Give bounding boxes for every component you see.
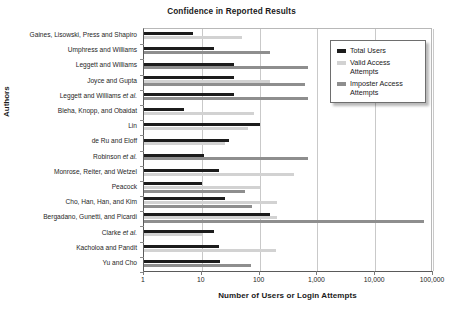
gridline xyxy=(317,29,318,271)
y-axis-tick xyxy=(140,151,144,152)
bar-total xyxy=(144,139,229,142)
bar-imposter xyxy=(144,205,252,208)
bar-valid xyxy=(144,142,225,145)
bar-total xyxy=(144,230,214,233)
y-axis-label: Leggett and Williams et al. xyxy=(7,92,137,100)
bar-imposter xyxy=(144,190,245,193)
y-axis-tick xyxy=(140,59,144,60)
bar-total xyxy=(144,32,193,35)
x-axis-tick-label: 100,000 xyxy=(420,276,445,283)
y-axis-tick xyxy=(140,257,144,258)
legend-label-imposter-access-attempts: Imposter AccessAttempts xyxy=(350,79,403,97)
y-axis-tick xyxy=(140,105,144,106)
y-axis-label: Leggett and Williams xyxy=(7,61,137,69)
x-axis-tick xyxy=(374,271,375,275)
bar-total xyxy=(144,245,219,248)
bar-imposter xyxy=(144,97,308,100)
y-axis-label: Gaines, Lisowski, Press and Shapiro xyxy=(7,31,137,39)
bar-valid xyxy=(144,80,270,83)
legend-item-total-users: Total Users xyxy=(337,46,420,55)
bar-valid xyxy=(144,216,277,219)
chart-figure: Confidence in Reported Results Authors G… xyxy=(0,0,463,315)
bar-total xyxy=(144,123,260,126)
bar-valid xyxy=(144,173,294,176)
y-axis-label: Bleha, Knopp, and Obaidat xyxy=(7,107,137,115)
bar-imposter xyxy=(144,157,308,160)
x-axis-tick xyxy=(316,271,317,275)
x-axis-line xyxy=(143,271,433,272)
gridline xyxy=(260,29,261,271)
bar-valid xyxy=(144,186,260,189)
bar-total xyxy=(144,197,225,200)
bar-total xyxy=(144,213,270,216)
bar-valid xyxy=(144,233,202,236)
x-axis-tick xyxy=(432,271,433,275)
y-axis-label: Kacholoa and Pandit xyxy=(7,244,137,252)
chart-legend: Total Users Valid AccessAttempts Imposte… xyxy=(330,40,426,103)
bar-total xyxy=(144,154,204,157)
x-axis-tick xyxy=(201,271,202,275)
y-axis-label: Joyce and Gupta xyxy=(7,77,137,85)
bar-imposter xyxy=(144,66,308,69)
y-axis-label: Bergadano, Gunetti, and Picardi xyxy=(7,213,137,221)
bar-valid xyxy=(144,201,277,204)
y-axis-label: Yu and Cho xyxy=(7,259,137,267)
legend-swatch-imposter-access-icon xyxy=(337,82,346,86)
y-axis-label: Lin xyxy=(7,122,137,130)
y-axis-category-labels: Gaines, Lisowski, Press and ShapiroUmphr… xyxy=(8,28,140,271)
x-axis-tick xyxy=(259,271,260,275)
y-axis-label: Cho, Han, Han, and Kim xyxy=(7,198,137,206)
x-axis-title: Number of Users or Login Attempts xyxy=(143,291,432,300)
bar-total xyxy=(144,182,202,185)
y-axis-tick xyxy=(140,242,144,243)
chart-title: Confidence in Reported Results xyxy=(0,7,463,16)
legend-swatch-valid-access-icon xyxy=(337,61,346,65)
bar-imposter xyxy=(144,264,251,267)
y-axis-tick xyxy=(140,120,144,121)
x-axis-tick-label: 10 xyxy=(197,276,205,283)
y-axis-tick xyxy=(140,90,144,91)
bar-valid xyxy=(144,127,248,130)
bar-valid xyxy=(144,36,242,39)
x-axis-tick-label: 100 xyxy=(253,276,264,283)
bar-imposter xyxy=(144,220,424,223)
x-axis-tick-label: 1,000 xyxy=(308,276,325,283)
bar-valid xyxy=(144,112,254,115)
legend-label-valid-access-attempts: Valid AccessAttempts xyxy=(350,58,390,76)
y-axis-label: Monrose, Reiter, and Wetzel xyxy=(7,168,137,176)
bar-imposter xyxy=(144,51,270,54)
bar-total xyxy=(144,63,234,66)
bar-total xyxy=(144,76,234,79)
y-axis-tick xyxy=(140,135,144,136)
bar-total xyxy=(144,169,219,172)
y-axis-label: Robinson et al. xyxy=(7,153,137,161)
y-axis-label: Peacock xyxy=(7,183,137,191)
bar-total xyxy=(144,108,184,111)
bar-total xyxy=(144,47,214,50)
bar-total xyxy=(144,260,220,263)
x-axis-tick-label: 10,000 xyxy=(364,276,385,283)
legend-label-total-users: Total Users xyxy=(350,46,386,55)
legend-swatch-total-users-icon xyxy=(337,49,346,53)
bar-valid xyxy=(144,249,276,252)
legend-item-imposter-access-attempts: Imposter AccessAttempts xyxy=(337,79,420,97)
y-axis-tick xyxy=(140,226,144,227)
y-axis-tick xyxy=(140,166,144,167)
y-axis-tick xyxy=(140,44,144,45)
legend-item-valid-access-attempts: Valid AccessAttempts xyxy=(337,58,420,76)
y-axis-label: Clarke et al. xyxy=(7,229,137,237)
bar-imposter xyxy=(144,83,305,86)
x-axis-tick-label: 1 xyxy=(141,276,145,283)
y-axis-label: Umphress and Williams xyxy=(7,46,137,54)
y-axis-label: de Ru and Eloff xyxy=(7,137,137,145)
bar-total xyxy=(144,93,234,96)
x-axis-tick xyxy=(143,271,144,275)
gridline xyxy=(433,29,434,271)
